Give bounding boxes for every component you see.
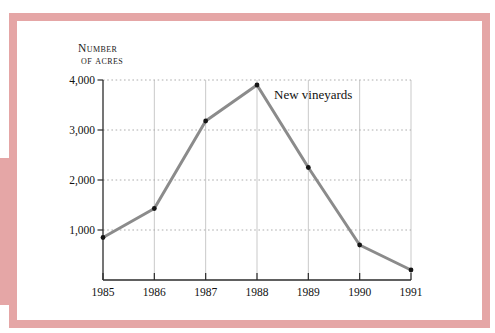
y-tick-label: 1,000: [69, 224, 95, 237]
y-tick-label: 3,000: [69, 124, 95, 137]
x-tick-label: 1986: [143, 286, 166, 298]
data-point: [152, 206, 157, 211]
x-tick-label: 1991: [400, 286, 423, 298]
x-tick-label: 1988: [246, 286, 269, 298]
y-tick-label: 4,000: [69, 74, 95, 87]
data-point: [203, 119, 208, 124]
figure-page: Number of acres New vineyards 4,0003,000…: [0, 0, 495, 333]
x-tick-label: 1989: [297, 286, 320, 298]
y-axis-title-line-2: of acres: [81, 54, 123, 66]
data-point: [306, 165, 311, 170]
y-axis-title-line-1: Number: [78, 42, 117, 54]
data-point: [357, 243, 362, 248]
data-point: [409, 268, 414, 273]
data-point: [101, 235, 106, 240]
x-tick-label: 1985: [92, 286, 115, 298]
x-tick-label: 1987: [194, 286, 217, 298]
x-tick-label: 1990: [348, 286, 371, 298]
vineyards-line-chart: Number of acres New vineyards 4,0003,000…: [0, 0, 495, 333]
data-point: [255, 83, 260, 88]
y-tick-label: 2,000: [69, 174, 95, 187]
series-annotation-label: New vineyards: [274, 87, 352, 102]
